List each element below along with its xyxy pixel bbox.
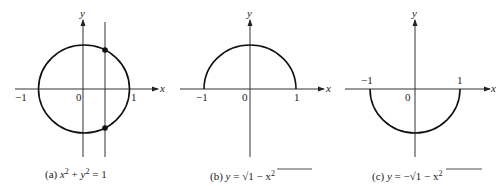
x-axis-label: x [159,82,165,94]
tick-one: 1 [294,91,300,103]
panel-b: y x −1 0 1 (b) y = √1 − x2 [180,7,331,183]
caption-a: (a) x2 + y2 = 1 [45,167,107,181]
tick-neg-one: −1 [15,91,27,103]
y-axis-label: y [246,7,252,19]
tick-one: 1 [131,91,137,103]
intersection-point-lower [102,125,108,131]
x-axis-label: x [490,82,496,94]
panel-c: y x −1 0 1 (c) y = −√1 − x2 [345,7,496,183]
tick-neg-one: −1 [361,74,373,86]
intersection-point-upper [102,47,108,53]
tick-neg-one: −1 [196,91,208,103]
y-axis-label: y [411,7,417,19]
x-axis-label: x [325,82,331,94]
y-axis-label: y [79,7,85,19]
caption-b: (b) y = √1 − x2 [210,169,275,183]
tick-zero: 0 [405,91,411,103]
tick-zero: 0 [242,91,248,103]
tick-zero: 0 [76,91,82,103]
figure-canvas: y x −1 0 1 (a) x2 + y2 = 1 y x −1 0 1 (b… [0,0,500,186]
tick-one: 1 [457,74,463,86]
panel-a: y x −1 0 1 (a) x2 + y2 = 1 [15,7,165,181]
caption-c: (c) y = −√1 − x2 [372,169,443,183]
